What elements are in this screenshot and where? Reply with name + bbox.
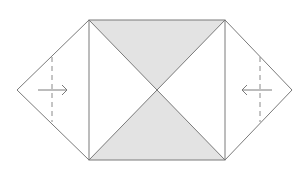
- arrow-left-icon: [242, 85, 272, 95]
- shaded-bottom-triangle: [89, 90, 225, 160]
- shaded-top-triangle: [89, 20, 225, 90]
- origami-fold-diagram: [0, 0, 303, 173]
